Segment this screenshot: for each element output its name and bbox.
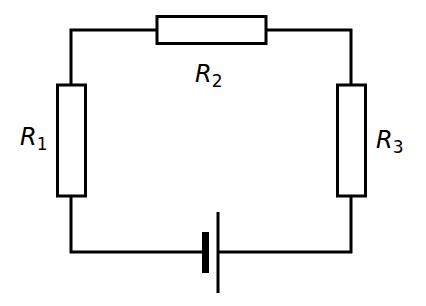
- battery-short-plate: [202, 232, 209, 273]
- label-r1: R1: [20, 125, 48, 153]
- label-r2: R2: [195, 62, 223, 90]
- wire-top-left: [71, 30, 157, 85]
- resistor-r3: [338, 85, 366, 196]
- circuit-diagram: [0, 0, 426, 306]
- wire-top-right: [266, 30, 351, 85]
- resistor-r1: [58, 85, 86, 196]
- resistor-r2: [157, 17, 266, 44]
- wire-bottom-right: [218, 196, 351, 252]
- wire-bottom-left: [71, 196, 203, 252]
- label-r3: R3: [376, 128, 404, 156]
